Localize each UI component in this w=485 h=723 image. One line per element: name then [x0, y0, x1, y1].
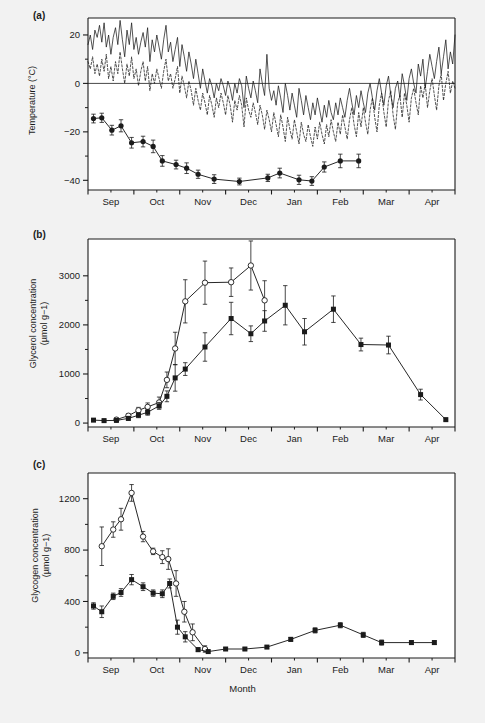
data-point-marker: [160, 554, 165, 559]
data-point-marker: [432, 640, 437, 645]
data-point-marker: [296, 177, 301, 182]
panel-b-tag: (b): [33, 229, 46, 240]
data-point-marker: [173, 375, 178, 380]
data-point-marker: [338, 623, 343, 628]
data-point-marker: [183, 634, 188, 639]
data-point-marker: [129, 140, 134, 145]
x-tick-label: Nov: [194, 664, 211, 675]
x-tick-label: Mar: [378, 664, 394, 675]
panel-b: (b) Glycerol concentration (µmol g−1) 30…: [0, 225, 485, 455]
data-point-marker: [322, 164, 327, 169]
data-point-marker: [164, 377, 169, 382]
data-point-marker: [151, 144, 156, 149]
data-point-marker: [202, 344, 207, 349]
data-point-marker: [99, 609, 104, 614]
y-tick-label: 0: [75, 78, 80, 89]
data-point-marker: [379, 640, 384, 645]
x-tick-label: Jan: [287, 433, 302, 444]
x-tick-label: Sep: [102, 196, 119, 207]
data-point-marker: [91, 116, 96, 121]
data-point-marker: [237, 179, 242, 184]
data-point-marker: [331, 307, 336, 312]
y-tick-label: 3000: [59, 270, 80, 281]
x-tick-label: Jan: [287, 196, 302, 207]
data-point-marker: [111, 594, 116, 599]
data-point-marker: [175, 625, 180, 630]
x-tick-label: Apr: [425, 433, 440, 444]
y-tick-label: 1000: [59, 368, 80, 379]
y-tick-label: 800: [64, 544, 80, 555]
x-tick-label: Feb: [332, 664, 348, 675]
data-point-marker: [206, 649, 211, 654]
data-point-marker: [190, 630, 195, 635]
data-point-marker: [356, 158, 361, 163]
panel-c-ylabel-line1: Glycogen concentration: [30, 508, 40, 603]
data-point-marker: [228, 279, 233, 284]
x-tick-label: Feb: [332, 433, 348, 444]
data-point-marker: [338, 158, 343, 163]
data-point-marker: [114, 418, 119, 423]
x-tick-label: Mar: [378, 196, 394, 207]
data-point-marker: [283, 303, 288, 308]
panel-a-plot: 200−20−40SepOctNovDecJanFebMarApr: [0, 0, 485, 225]
panel-c-tag: (c): [33, 459, 45, 470]
data-point-marker: [242, 647, 247, 652]
data-point-marker: [140, 534, 145, 539]
panel-b-ylabel-line2: (µmol g−1): [38, 302, 48, 345]
y-tick-label: 2000: [59, 319, 80, 330]
data-point-marker: [262, 318, 267, 323]
data-point-marker: [288, 637, 293, 642]
x-tick-label: Oct: [149, 664, 164, 675]
panel-b-ylabel: Glycerol concentration (µmol g−1): [28, 249, 49, 399]
panel-c-ylabel-line2: (µmol g−1): [41, 534, 51, 577]
data-point-marker: [129, 577, 134, 582]
data-point-marker: [157, 403, 162, 408]
data-point-marker: [229, 316, 234, 321]
data-point-marker: [223, 647, 228, 652]
data-point-marker: [166, 556, 171, 561]
panel-c-ylabel: Glycogen concentration (µmol g−1): [30, 478, 51, 633]
x-tick-label: Mar: [378, 433, 394, 444]
data-point-marker: [313, 628, 318, 633]
data-point-marker: [140, 139, 145, 144]
y-tick-label: 400: [64, 596, 80, 607]
data-point-marker: [196, 172, 201, 177]
x-tick-label: Jan: [287, 664, 302, 675]
data-point-marker: [141, 584, 146, 589]
panel-b-ylabel-line1: Glycerol concentration: [28, 279, 38, 369]
y-tick-label: 1200: [59, 493, 80, 504]
data-point-marker: [302, 329, 307, 334]
x-tick-label: Sep: [102, 664, 119, 675]
data-point-marker: [262, 298, 267, 303]
x-axis-title: Month: [0, 683, 485, 694]
data-point-marker: [196, 647, 201, 652]
data-point-marker: [361, 632, 366, 637]
y-tick-label: −20: [64, 126, 80, 137]
data-point-marker: [126, 416, 131, 421]
data-point-marker: [91, 603, 96, 608]
data-point-marker: [136, 408, 141, 413]
x-tick-label: Nov: [194, 433, 211, 444]
y-tick-label: −40: [64, 175, 80, 186]
x-tick-label: Oct: [149, 433, 164, 444]
panel-b-plot: 3000200010000SepOctNovDecJanFebMarApr: [0, 225, 485, 455]
data-point-marker: [111, 527, 116, 532]
x-tick-label: Apr: [425, 664, 440, 675]
panel-a-ylabel: Temperature (°C): [27, 41, 38, 161]
data-point-marker: [164, 394, 169, 399]
data-point-marker: [119, 590, 124, 595]
data-point-marker: [182, 609, 187, 614]
panel-a: (a) Temperature (°C) 200−20−40SepOctNovD…: [0, 0, 485, 225]
data-point-marker: [264, 645, 269, 650]
x-tick-label: Dec: [240, 196, 257, 207]
data-point-marker: [443, 417, 448, 422]
x-tick-label: Dec: [240, 433, 257, 444]
panel-c: (c) Glycogen concentration (µmol g−1) 12…: [0, 455, 485, 723]
data-point-marker: [172, 346, 177, 351]
data-point-marker: [150, 549, 155, 554]
data-point-marker: [248, 331, 253, 336]
data-point-marker: [409, 640, 414, 645]
data-point-marker: [91, 418, 96, 423]
figure-root: (a) Temperature (°C) 200−20−40SepOctNovD…: [0, 0, 485, 723]
x-tick-label: Sep: [102, 433, 119, 444]
